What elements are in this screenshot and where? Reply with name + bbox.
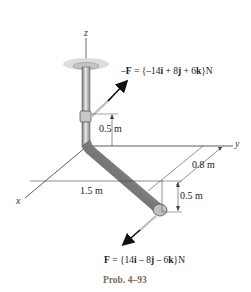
lower-force-arrow — [124, 230, 140, 244]
lower-force-label: F = {14i – 8j – 6k}N — [104, 256, 185, 266]
y-axis-label: y — [235, 139, 239, 149]
z-axis-label: z — [84, 28, 88, 38]
pipe-diagram — [0, 0, 251, 292]
lower-dimension-label: 0.5 m — [180, 191, 203, 201]
pipe-elbow — [153, 204, 167, 216]
y-offset-label: 0.8 m — [192, 160, 215, 170]
upper-force-arrow — [108, 82, 126, 101]
x-axis — [25, 147, 86, 198]
figure-caption: Prob. 4–93 — [103, 276, 147, 286]
upper-force-label: –F = {–14i + 8j + 6k}N — [121, 67, 213, 77]
vertical-pipe — [82, 67, 90, 147]
upper-dimension-label: 0.5 m — [99, 124, 122, 134]
x-axis-label: x — [16, 196, 20, 206]
collar — [80, 111, 91, 122]
x-length-label: 1.5 m — [79, 186, 104, 196]
inclined-pipe — [82, 140, 162, 213]
